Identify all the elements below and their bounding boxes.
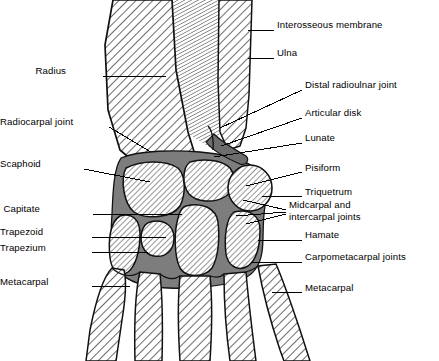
ulna-bone — [218, 0, 252, 150]
label-hamate: Hamate — [305, 229, 339, 241]
wrist-anatomy-illustration — [0, 0, 439, 361]
label-distal-radioulnar-joint: Distal radioulnar joint — [305, 79, 397, 91]
label-trapezoid: Trapezoid — [0, 226, 34, 238]
label-scaphoid: Scaphoid — [0, 158, 28, 170]
pisiform-bone — [228, 165, 272, 211]
lunate-bone — [184, 160, 234, 201]
metacarpal-4 — [224, 272, 256, 361]
scaphoid-bone — [123, 162, 184, 217]
metacarpal-1 — [86, 268, 125, 361]
label-lunate: Lunate — [305, 132, 335, 144]
label-triquetrum: Triquetrum — [305, 186, 352, 198]
wrist-anatomy-figure: Interosseous membraneUlnaDistal radiouln… — [0, 0, 439, 361]
label-radius: Radius — [0, 65, 66, 77]
metacarpal-3 — [179, 276, 212, 361]
metacarpal-2 — [135, 272, 163, 361]
label-midcarpal-and-intercarpal-joints: Midcarpal and intercarpal joints — [289, 199, 361, 222]
label-metacarpal-left: Metacarpal — [0, 276, 27, 288]
label-ulna: Ulna — [277, 47, 297, 59]
label-interosseous-membrane: Interosseous membrane — [277, 19, 383, 31]
trapezoid-bone — [141, 221, 174, 256]
metacarpal-5 — [258, 264, 310, 361]
capitate-bone — [175, 205, 219, 276]
label-articular-disk: Articular disk — [305, 107, 361, 119]
label-radiocarpal-joint: Radiocarpal joint — [0, 116, 18, 128]
label-metacarpal-right: Metacarpal — [305, 282, 353, 294]
label-pisiform: Pisiform — [305, 162, 340, 174]
label-trapezium: Trapezium — [0, 242, 31, 254]
label-carpometacarpal-joints: Carpometacarpal joints — [305, 251, 406, 263]
label-capitate: Capitate — [0, 203, 40, 215]
